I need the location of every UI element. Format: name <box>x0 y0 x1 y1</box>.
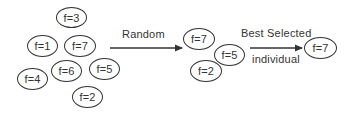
node-label: f=5 <box>96 63 112 75</box>
winner-node-f7: f=7 <box>304 37 337 59</box>
node-label: f=3 <box>63 12 79 24</box>
population-node-f4: f=4 <box>17 68 48 90</box>
individual-label: individual <box>252 53 300 65</box>
node-label: f=4 <box>24 73 40 85</box>
population-node-f1: f=1 <box>27 35 58 57</box>
node-label: f=7 <box>191 33 207 45</box>
node-label: f=6 <box>58 65 74 77</box>
population-node-f3: f=3 <box>56 7 87 28</box>
tournament-node-f2: f=2 <box>190 60 222 82</box>
node-label: f=5 <box>221 49 237 61</box>
node-label: f=1 <box>34 40 50 52</box>
population-node-f2: f=2 <box>72 86 103 108</box>
node-label: f=2 <box>79 91 95 103</box>
population-node-f5: f=5 <box>89 58 120 80</box>
tournament-selection-diagram: f=3 f=1 f=7 f=4 f=6 f=5 f=2 Random f=7 f… <box>0 0 351 116</box>
tournament-node-f7: f=7 <box>183 28 215 50</box>
node-label: f=2 <box>198 65 214 77</box>
best-selected-label: Best Selected <box>241 27 311 39</box>
node-label: f=7 <box>312 42 328 54</box>
node-label: f=7 <box>72 40 88 52</box>
random-arrow-label: Random <box>122 28 165 40</box>
population-node-f7: f=7 <box>64 35 96 57</box>
tournament-node-f5: f=5 <box>214 44 245 66</box>
population-node-f6: f=6 <box>51 60 82 82</box>
